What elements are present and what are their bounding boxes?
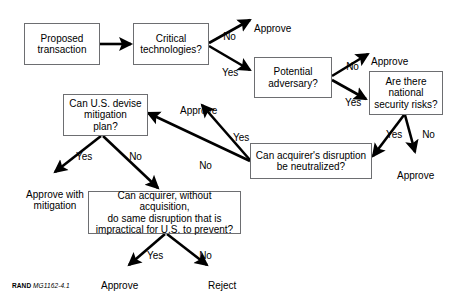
edge-label-critical-no: No bbox=[212, 19, 236, 54]
terminal-approve-risks-no-label: Approve bbox=[397, 170, 434, 181]
terminal-reject-impractical-no-label: Reject bbox=[208, 280, 236, 291]
figure-caption: RAND MG1162-4.1 bbox=[12, 282, 70, 289]
terminal-approve-neutralized-yes-label: Approve bbox=[180, 105, 217, 116]
edge-label-adversary-yes: Yes bbox=[334, 85, 361, 120]
edge-label-neutralized-no: No bbox=[188, 148, 212, 183]
node-us-devise-mitigation-plan-label: Can U.S. devise mitigation plan? bbox=[69, 98, 141, 133]
node-acquirer-without-acquisition[interactable]: Can acquirer, without acquisition, do sa… bbox=[88, 191, 241, 234]
terminal-approve-adversary-no: Approve bbox=[371, 44, 408, 67]
node-proposed-transaction[interactable]: Proposed transaction bbox=[24, 23, 100, 65]
terminal-approve-adversary-no-label: Approve bbox=[371, 56, 408, 67]
edge-label-risks-no: No bbox=[411, 117, 435, 152]
edge-label-mitigation-yes-text: Yes bbox=[76, 151, 92, 162]
figure-caption-brand: RAND bbox=[12, 282, 31, 289]
edge-label-risks-no-text: No bbox=[422, 129, 435, 140]
edge-label-adversary-no: No bbox=[335, 49, 359, 84]
terminal-approve-risks-no: Approve bbox=[397, 158, 434, 181]
terminal-approve-critical-no-label: Approve bbox=[254, 23, 291, 34]
edge-label-neutralized-no-text: No bbox=[199, 160, 212, 171]
edge-label-risks-yes: Yes bbox=[375, 117, 402, 152]
terminal-approve-with-mitigation-label: Approve with mitigation bbox=[26, 189, 84, 212]
flowchart-figure: Proposed transaction Critical technologi… bbox=[0, 0, 461, 305]
edge-label-neutralized-yes: Yes bbox=[222, 120, 249, 155]
terminal-approve-impractical-yes-label: Approve bbox=[101, 280, 138, 291]
edge-label-critical-yes: Yes bbox=[211, 55, 238, 90]
edge-label-neutralized-yes-text: Yes bbox=[233, 132, 249, 143]
node-national-security-risks[interactable]: Are there national security risks? bbox=[369, 71, 443, 115]
node-national-security-risks-label: Are there national security risks? bbox=[374, 76, 437, 111]
node-acquirer-disruption-neutralized[interactable]: Can acquirer's disruption be neutralized… bbox=[250, 143, 372, 179]
edge-label-mitigation-yes: Yes bbox=[65, 139, 92, 174]
node-us-devise-mitigation-plan[interactable]: Can U.S. devise mitigation plan? bbox=[63, 94, 148, 136]
edge-label-mitigation-no: No bbox=[118, 139, 142, 174]
node-potential-adversary-label: Potential adversary? bbox=[268, 66, 317, 89]
edge-label-risks-yes-text: Yes bbox=[386, 129, 402, 140]
edge-label-critical-no-text: No bbox=[223, 31, 236, 42]
edge-label-impractical-no-text: No bbox=[199, 250, 212, 261]
terminal-approve-neutralized-yes: Approve bbox=[180, 93, 217, 116]
edge-label-impractical-no: No bbox=[188, 238, 212, 273]
edge-label-mitigation-no-text: No bbox=[129, 151, 142, 162]
node-acquirer-without-acquisition-label: Can acquirer, without acquisition, do sa… bbox=[92, 190, 237, 236]
terminal-approve-with-mitigation: Approve with mitigation bbox=[16, 177, 94, 212]
terminal-reject-impractical-no: Reject bbox=[208, 268, 236, 291]
edge-label-critical-yes-text: Yes bbox=[222, 67, 238, 78]
terminal-approve-critical-no: Approve bbox=[254, 11, 291, 34]
node-proposed-transaction-label: Proposed transaction bbox=[38, 33, 87, 56]
node-acquirer-disruption-neutralized-label: Can acquirer's disruption be neutralized… bbox=[256, 150, 366, 173]
terminal-approve-impractical-yes: Approve bbox=[101, 268, 138, 291]
node-potential-adversary[interactable]: Potential adversary? bbox=[254, 57, 332, 98]
figure-caption-code: MG1162-4.1 bbox=[33, 282, 70, 289]
edge-label-adversary-yes-text: Yes bbox=[345, 97, 361, 108]
node-critical-technologies[interactable]: Critical technologies? bbox=[133, 23, 209, 65]
edge-label-impractical-yes-text: Yes bbox=[147, 250, 163, 261]
node-critical-technologies-label: Critical technologies? bbox=[140, 33, 202, 56]
edge-label-adversary-no-text: No bbox=[346, 61, 359, 72]
edge-label-impractical-yes: Yes bbox=[136, 238, 163, 273]
